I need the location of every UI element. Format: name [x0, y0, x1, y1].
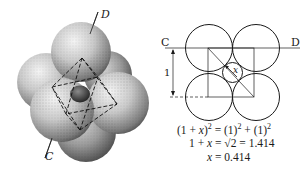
figure-canvas: D C C D 1 x	[0, 0, 307, 181]
equation-line-1: (1 + x)2 = (1)2 + (1)2	[177, 123, 271, 137]
label-d-left: D	[100, 8, 110, 21]
label-c-right: C	[161, 36, 169, 49]
sphere-cluster: D C	[17, 8, 149, 163]
label-dimension-1: 1	[164, 67, 170, 78]
label-c-left: C	[45, 150, 54, 163]
label-radius-x: x	[233, 65, 238, 75]
equation-line-3: x = 0.414	[207, 152, 250, 164]
label-d-right: D	[291, 36, 300, 49]
equation-line-2: 1 + x = √2 = 1.414	[189, 138, 275, 150]
